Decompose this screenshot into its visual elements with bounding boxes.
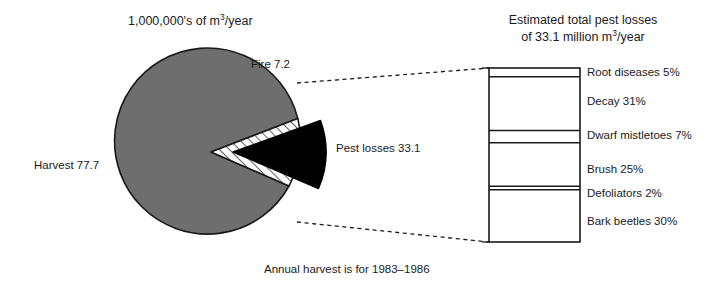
pest-losses-figure: 1,000,000's of m3/year Estimated total p… xyxy=(0,0,726,290)
right-chart-title: Estimated total pest lossesof 33.1 milli… xyxy=(483,12,683,46)
right-chart-title-line1: Estimated total pest losses xyxy=(509,13,658,27)
bar-label-decay: Decay 31% xyxy=(587,94,646,109)
left-chart-title-tail: /year xyxy=(225,14,253,28)
stacked-column-outline xyxy=(489,68,580,242)
bar-label-dwarf-mistletoes: Dwarf mistletoes 7% xyxy=(587,128,692,143)
right-chart-title-line2-tail: /year xyxy=(617,30,645,44)
figure-footnote: Annual harvest is for 1983–1986 xyxy=(264,262,430,277)
connector-line-top xyxy=(297,68,489,83)
bar-label-root-diseases: Root diseases 5% xyxy=(587,65,680,80)
bar-label-brush: Brush 25% xyxy=(587,162,643,177)
pie-label-harvest: Harvest 77.7 xyxy=(34,158,99,173)
bar-label-bark-beetles: Bark beetles 30% xyxy=(587,214,677,229)
left-chart-title: 1,000,000's of m3/year xyxy=(128,14,253,29)
bar-label-defoliators: Defoliators 2% xyxy=(587,186,662,201)
right-chart-title-line2: of 33.1 million m xyxy=(521,30,612,44)
pie-label-fire: Fire 7.2 xyxy=(251,57,290,72)
connector-line-bottom xyxy=(297,222,489,242)
left-chart-title-main: 1,000,000's of m xyxy=(128,14,220,28)
pie-label-pest-losses: Pest losses 33.1 xyxy=(336,141,420,156)
